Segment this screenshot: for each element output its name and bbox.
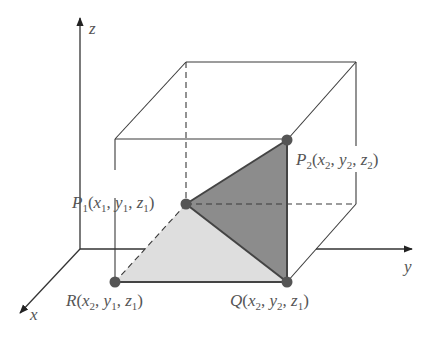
label-R: R(x2, y1, z1) <box>65 291 143 312</box>
point-P2 <box>282 135 293 146</box>
point-P1 <box>181 199 192 210</box>
x-axis-label: x <box>29 305 38 324</box>
z-axis-label: z <box>88 19 96 38</box>
y-axis-label: y <box>402 257 412 276</box>
point-Q <box>282 277 293 288</box>
diagram-svg: z y x P1(x1, y1, z1) P2(x2, y2, z2) R(x2… <box>0 0 435 339</box>
coordinate-box-diagram: z y x P1(x1, y1, z1) P2(x2, y2, z2) R(x2… <box>0 0 435 339</box>
point-R <box>110 277 121 288</box>
label-P1: P1(x1, y1, z1) <box>71 193 154 214</box>
label-P2: P2(x2, y2, z2) <box>295 150 378 171</box>
label-Q: Q(x2, y2, z1) <box>230 291 309 312</box>
